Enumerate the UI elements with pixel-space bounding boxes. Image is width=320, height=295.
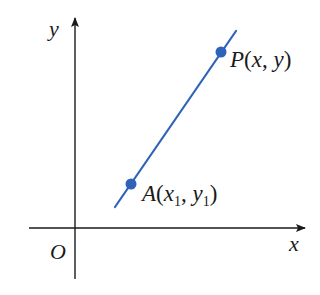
point-a-name: A xyxy=(140,181,157,206)
diagram-canvas: y x O A(x1, y1) P(x, y) xyxy=(0,0,320,295)
y-axis-label: y xyxy=(47,16,59,41)
point-p-separator: , xyxy=(262,47,274,72)
point-a-marker xyxy=(126,179,137,190)
point-a-open-paren: ( xyxy=(156,181,164,206)
point-a-x-subscript: 1 xyxy=(174,194,181,209)
point-a-label: A(x1, y1) xyxy=(140,181,217,209)
x-axis-label: x xyxy=(288,231,299,256)
point-p-open-paren: ( xyxy=(244,47,252,72)
coordinate-plane: y x O A(x1, y1) P(x, y) xyxy=(0,0,320,295)
point-p-close-paren: ) xyxy=(284,47,292,72)
point-p-y: y xyxy=(271,47,284,72)
point-a-x: x xyxy=(163,181,175,206)
point-a-y: y xyxy=(190,181,203,206)
point-a-y-subscript: 1 xyxy=(203,194,210,209)
point-p-x: x xyxy=(251,47,263,72)
point-p-name: P xyxy=(229,47,244,72)
point-p-label: P(x, y) xyxy=(229,47,291,72)
point-p-marker xyxy=(216,47,227,58)
origin-label: O xyxy=(50,239,66,264)
point-a-close-paren: ) xyxy=(210,181,218,206)
point-a-separator: , xyxy=(181,181,193,206)
